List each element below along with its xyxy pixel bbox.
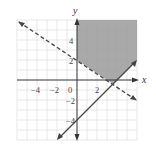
y-tick-neg4: −4 [66,116,76,126]
dashed-line-arrow-start-icon [18,22,25,28]
dashed-line-arrow-end-icon [130,95,137,101]
y-tick-neg2: −2 [66,96,75,106]
shaded-region [77,20,137,84]
tick-zero: 0 [68,85,72,95]
x-axis-arrow-icon [132,78,139,83]
x-tick-neg4: −4 [31,85,41,95]
x-axis-label: x [141,74,147,85]
x-tick-2: 2 [95,85,99,95]
x-tick-neg2: −2 [50,85,59,95]
graph: y x −4 −2 0 2 4 2 −2 −4 [0,0,156,146]
y-tick-2: 2 [69,56,73,66]
y-tick-4: 4 [69,36,74,46]
y-axis-label: y [72,5,78,16]
